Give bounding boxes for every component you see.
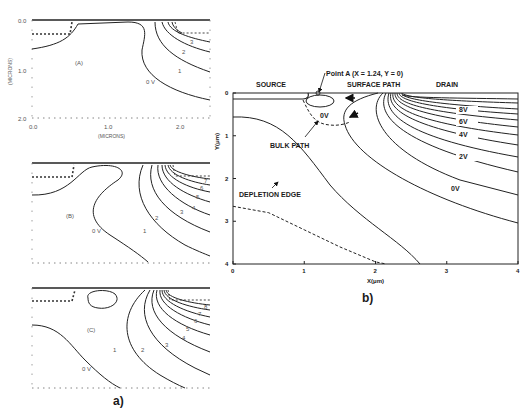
panel-b-zero-v-island (306, 95, 334, 107)
point-a-arrow (319, 73, 325, 92)
panel-b-xtick-label: 3 (445, 268, 449, 274)
panel-A-drain-junction (175, 22, 210, 33)
contour-label-2v: 2V (459, 153, 468, 160)
panel-A-xtick-1: 1.0 (104, 124, 113, 130)
panel-B-contour-label-6: 6 (200, 185, 204, 191)
panel-A-ytick-0: 0.0 (18, 18, 27, 24)
panel-C-subtitle: (C) (87, 327, 95, 333)
panel-b-axes: 0123401234 (225, 90, 520, 274)
depletion-edge-pointer (272, 182, 278, 188)
bulk-path-arrow-right (350, 113, 358, 117)
panel-b-ytick-label: 4 (225, 261, 229, 267)
panel-B-drain-junction (173, 165, 210, 176)
panel-C-source-junction (32, 290, 75, 301)
panel-C-contour-8 (166, 290, 210, 305)
contour-label-8v: 8V (459, 106, 468, 113)
contour-label-6v: 6V (459, 118, 468, 125)
panel-A-xlabel: (MICRONS) (98, 133, 125, 139)
bulk-path-label: BULK PATH (270, 142, 309, 149)
contour-label-0v: 0V (451, 185, 460, 192)
panel-A-ytick-2: 2.0 (18, 116, 27, 122)
panel-b-contour-2v (376, 93, 518, 195)
panel-b-drain-junction (402, 95, 518, 99)
drain-label: DRAIN (436, 81, 458, 88)
figure-canvas: (A) 0 V 1 2 3 0.0 1.0 2.0 0.0 1.0 2.0 (M… (0, 0, 521, 418)
bulk-path-pointer (305, 121, 318, 137)
depletion-edge-label: DEPLETION EDGE (239, 191, 301, 198)
panel-C-contour-label-5: 5 (186, 326, 190, 332)
panel-B-contour-label-1: 1 (143, 228, 147, 234)
point-a-label: Point A (X = 1.24, Y = 0) (326, 70, 403, 78)
panel-A-contour-label-3: 3 (190, 39, 194, 45)
panel-A-contour-2 (162, 22, 210, 52)
contour-label-4v: 4V (459, 131, 468, 138)
panel-b-ytick-label: 0 (225, 90, 229, 96)
panel-b: 0123401234 SOURCE SURFACE PATH D (214, 70, 520, 284)
panel-B-contour-0v (32, 165, 148, 262)
panel-C-contour-label-7: 7 (198, 311, 202, 317)
panel-A-ytick-1: 1.0 (18, 68, 27, 74)
panel-B-contour-label-2: 2 (155, 215, 159, 221)
panel-A-subtitle: (A) (75, 60, 83, 66)
panel-b-ytick-label: 1 (225, 133, 229, 139)
panel-C-contour-label-1: 1 (113, 347, 117, 353)
panel-b-xtick-label: 0 (231, 268, 235, 274)
panel-A-contour-label-2: 2 (182, 49, 186, 55)
panel-b-depletion-edge (233, 206, 386, 264)
panel-A-contour-label-1: 1 (178, 68, 182, 74)
panel-C-drain-junction (168, 290, 210, 300)
panel-a-B: (B) 0 V 1 2 3 4 5 6 7 (32, 163, 210, 263)
panel-C-contour-label-2: 2 (141, 347, 145, 353)
panel-C-contour-label-4: 4 (182, 335, 186, 341)
panel-b-xtick-label: 4 (516, 268, 520, 274)
surface-path-label: SURFACE PATH (347, 81, 400, 88)
panel-b-label: b) (362, 291, 373, 305)
panel-A-contour-3 (168, 22, 210, 42)
panel-b-xlabel: X(μm) (367, 278, 384, 284)
panel-C-contour-label-3: 3 (165, 342, 169, 348)
panel-C-contour-5 (160, 290, 210, 325)
panel-a-A: (A) 0 V 1 2 3 0.0 1.0 2.0 0.0 1.0 2.0 (M… (7, 18, 210, 139)
panel-C-contour-2 (144, 290, 210, 375)
panel-b-ytick-label: 3 (225, 218, 229, 224)
panel-a-C: (C) 0 V 1 2 3 4 5 6 7 8 (32, 288, 210, 388)
panel-A-xtick-2: 2.0 (176, 124, 185, 130)
panel-b-contour-6v (393, 93, 518, 135)
panel-B-subtitle: (B) (66, 213, 74, 219)
panel-A-ylabel: (MICRONS) (7, 58, 13, 85)
panel-A-contour-label-0v: 0 V (146, 79, 155, 85)
panel-b-ytick-label: 2 (225, 176, 229, 182)
panel-b-ylabel: Y(μm) (214, 133, 220, 150)
panel-A-xtick-0: 0.0 (29, 124, 38, 130)
panel-A-source-junction (32, 22, 72, 34)
panel-A-contour-1 (155, 22, 210, 72)
panel-B-contour-label-3: 3 (180, 209, 184, 215)
panel-b-xtick-label: 2 (374, 268, 378, 274)
panel-b-xtick-label: 1 (302, 268, 306, 274)
panel-B-source-junction (32, 165, 74, 177)
panel-B-contour-2 (151, 165, 210, 232)
source-label: SOURCE (256, 81, 286, 88)
panel-b-source-junction (233, 93, 308, 99)
panel-B-contour-label-0v: 0 V (92, 228, 101, 234)
zero-v-inner-label: 0V (320, 112, 329, 119)
panel-B-contour-label-4: 4 (192, 205, 196, 211)
panel-C-contour-label-0v: 0 V (82, 366, 91, 372)
panel-C-contour-0v (32, 325, 120, 388)
panel-a-label: a) (113, 394, 124, 408)
panel-C-zero-v-island (88, 291, 117, 309)
panel-B-contour-7 (170, 165, 210, 179)
